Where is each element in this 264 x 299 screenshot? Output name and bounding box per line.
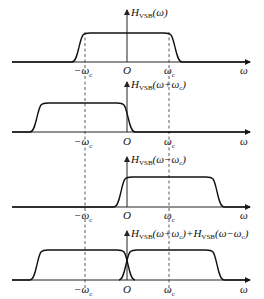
- panel-4-wc-label: ωc: [164, 284, 175, 298]
- panel-3-neg-wc-label: −ωc: [74, 210, 92, 224]
- panel-3-origin-label: O: [123, 210, 131, 221]
- panel-4-omega-axis-label: ω: [240, 284, 248, 295]
- vsb-filter-diagram: [0, 0, 264, 299]
- panel-4-origin-label: O: [123, 284, 131, 295]
- panel-3-function-label: HVSB(ω−ωc): [131, 154, 186, 167]
- panel-2-wc-label: ωc: [164, 136, 175, 150]
- panel-2-function-label: HVSB(ω+ωc): [131, 79, 186, 92]
- panel-4-neg-wc-label: −ωc: [74, 284, 92, 298]
- panel-1-origin-label: O: [123, 65, 131, 76]
- panel-2-omega-axis-label: ω: [240, 136, 248, 147]
- func-sub: VSB: [139, 12, 153, 20]
- panel-4-function-label: HVSB(ω+ωc)+HVSB(ω−ωc): [131, 228, 248, 241]
- panel-2-origin-label: O: [123, 136, 131, 147]
- sum-right-component-curve: [119, 250, 250, 280]
- func-arg: (ω): [153, 6, 168, 18]
- sum-left-component-curve: [12, 250, 135, 280]
- panel-1-omega-axis-label: ω: [240, 65, 248, 76]
- panel-2-neg-wc-label: −ωc: [74, 136, 92, 150]
- hvsb-shifted-left-curve: [12, 103, 250, 132]
- func-main: H: [131, 6, 139, 18]
- panel-3-omega-axis-label: ω: [240, 210, 248, 221]
- hvsb-curve: [12, 33, 250, 62]
- panel-1-neg-wc-label: −ωc: [74, 65, 92, 79]
- panel-3-wc-label: ωc: [164, 210, 175, 224]
- panel-1-function-label: HVSB(ω): [131, 7, 168, 20]
- hvsb-shifted-right-curve: [12, 177, 250, 207]
